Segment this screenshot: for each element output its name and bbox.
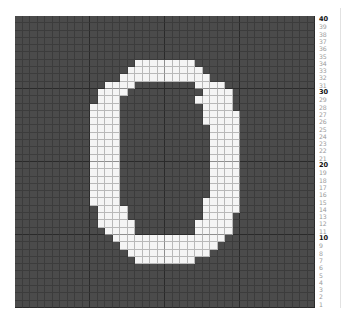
chart-cell xyxy=(195,31,203,38)
chart-cell xyxy=(270,213,278,220)
chart-cell xyxy=(248,60,256,67)
chart-cell xyxy=(98,191,106,198)
chart-cell xyxy=(218,38,226,45)
chart-cell xyxy=(180,111,188,118)
chart-cell xyxy=(83,206,91,213)
chart-cell xyxy=(38,89,46,96)
row-label: 20 xyxy=(319,162,328,169)
chart-cell xyxy=(188,133,196,140)
chart-cell xyxy=(23,213,31,220)
chart-cell xyxy=(90,206,98,213)
chart-cell xyxy=(210,184,218,191)
chart-cell xyxy=(210,96,218,103)
chart-cell xyxy=(203,177,211,184)
chart-cell xyxy=(263,118,271,125)
chart-cell xyxy=(60,228,68,235)
chart-cell xyxy=(113,220,121,227)
chart-cell xyxy=(15,16,23,23)
chart-cell xyxy=(293,286,301,293)
chart-cell xyxy=(53,235,61,242)
chart-cell xyxy=(278,133,286,140)
chart-cell xyxy=(143,147,151,154)
chart-cell xyxy=(30,169,38,176)
chart-cell xyxy=(195,177,203,184)
chart-cell xyxy=(120,111,128,118)
chart-cell xyxy=(195,220,203,227)
chart-cell xyxy=(173,111,181,118)
chart-cell xyxy=(218,155,226,162)
chart-cell xyxy=(90,293,98,300)
chart-cell xyxy=(263,74,271,81)
chart-cell xyxy=(263,242,271,249)
chart-cell xyxy=(210,111,218,118)
row-label: 5 xyxy=(319,272,323,279)
chart-cell xyxy=(45,264,53,271)
chart-cell xyxy=(285,147,293,154)
chart-cell xyxy=(150,184,158,191)
chart-cell xyxy=(180,242,188,249)
chart-cell xyxy=(23,104,31,111)
chart-cell xyxy=(203,147,211,154)
chart-cell xyxy=(158,206,166,213)
chart-cell xyxy=(135,264,143,271)
chart-cell xyxy=(105,89,113,96)
chart-cell xyxy=(53,184,61,191)
chart-cell xyxy=(218,220,226,227)
chart-cell xyxy=(68,286,76,293)
chart-cell xyxy=(83,133,91,140)
chart-cell xyxy=(300,118,308,125)
chart-cell xyxy=(165,140,173,147)
chart-cell xyxy=(68,264,76,271)
chart-cell xyxy=(263,177,271,184)
chart-cell xyxy=(135,16,143,23)
chart-cell xyxy=(38,104,46,111)
chart-cell xyxy=(165,38,173,45)
chart-cell xyxy=(135,74,143,81)
chart-cell xyxy=(23,271,31,278)
chart-cell xyxy=(285,235,293,242)
chart-cell xyxy=(285,228,293,235)
chart-cell xyxy=(128,38,136,45)
chart-cell xyxy=(135,125,143,132)
chart-cell xyxy=(120,155,128,162)
chart-cell xyxy=(293,118,301,125)
row-label: 19 xyxy=(319,169,326,176)
chart-cell xyxy=(38,264,46,271)
chart-cell xyxy=(210,52,218,59)
chart-cell xyxy=(188,31,196,38)
chart-cell xyxy=(270,220,278,227)
chart-cell xyxy=(293,301,301,308)
chart-cell xyxy=(233,213,241,220)
chart-cell xyxy=(113,133,121,140)
chart-cell xyxy=(53,271,61,278)
chart-cell xyxy=(278,82,286,89)
chart-cell xyxy=(188,155,196,162)
chart-cell xyxy=(173,16,181,23)
chart-cell xyxy=(83,23,91,30)
chart-cell xyxy=(248,242,256,249)
chart-cell xyxy=(75,286,83,293)
chart-cell xyxy=(300,162,308,169)
chart-cell xyxy=(30,257,38,264)
chart-cell xyxy=(23,89,31,96)
chart-cell xyxy=(143,118,151,125)
chart-cell xyxy=(233,155,241,162)
chart-cell xyxy=(90,104,98,111)
chart-cell xyxy=(263,38,271,45)
chart-cell xyxy=(68,96,76,103)
chart-cell xyxy=(285,89,293,96)
chart-cell xyxy=(300,279,308,286)
chart-cell xyxy=(225,162,233,169)
chart-cell xyxy=(75,177,83,184)
chart-cell xyxy=(105,191,113,198)
chart-cell xyxy=(255,242,263,249)
chart-cell xyxy=(83,74,91,81)
chart-cell xyxy=(75,45,83,52)
chart-cell xyxy=(158,169,166,176)
chart-cell xyxy=(218,184,226,191)
chart-cell xyxy=(285,96,293,103)
chart-cell xyxy=(15,184,23,191)
chart-cell xyxy=(90,169,98,176)
chart-cell xyxy=(120,301,128,308)
chart-cell xyxy=(113,104,121,111)
